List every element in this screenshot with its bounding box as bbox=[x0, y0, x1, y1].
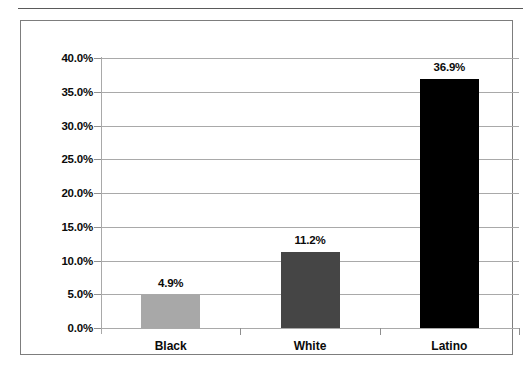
bar bbox=[420, 79, 479, 328]
chart-frame: 40.0% 35.0% 30.0% 25.0% 20.0% 15.0% 10.0… bbox=[20, 20, 513, 355]
y-axis-tick bbox=[94, 193, 101, 194]
bar-value-label: 36.9% bbox=[409, 61, 489, 73]
y-axis-tick bbox=[94, 159, 101, 160]
page-top-rule bbox=[18, 8, 523, 9]
y-axis-tick bbox=[94, 328, 101, 329]
category-label-white: White bbox=[260, 339, 360, 353]
y-tick-label-0: 0.0% bbox=[37, 322, 93, 334]
y-axis-tick bbox=[94, 294, 101, 295]
y-tick-label-10: 10.0% bbox=[37, 255, 93, 267]
category-label-latino: Latino bbox=[399, 339, 499, 353]
y-tick-label-15: 15.0% bbox=[37, 221, 93, 233]
y-axis-tick bbox=[94, 92, 101, 93]
y-axis-tick-labels: 40.0% 35.0% 30.0% 25.0% 20.0% 15.0% 10.0… bbox=[35, 21, 93, 354]
bar-value-label: 4.9% bbox=[131, 277, 211, 289]
y-tick-label-40: 40.0% bbox=[37, 52, 93, 64]
gridline bbox=[101, 328, 519, 329]
x-axis-tick bbox=[240, 328, 241, 335]
y-tick-label-35: 35.0% bbox=[37, 86, 93, 98]
y-axis-tick bbox=[94, 261, 101, 262]
y-axis-tick bbox=[94, 227, 101, 228]
y-axis-tick bbox=[94, 58, 101, 59]
y-tick-label-30: 30.0% bbox=[37, 120, 93, 132]
bar bbox=[281, 252, 340, 328]
x-axis-tick bbox=[519, 328, 520, 335]
y-tick-label-5: 5.0% bbox=[37, 288, 93, 300]
x-axis-tick bbox=[380, 328, 381, 335]
y-axis-tick bbox=[94, 126, 101, 127]
y-tick-label-20: 20.0% bbox=[37, 187, 93, 199]
category-label-black: Black bbox=[121, 339, 221, 353]
y-tick-label-25: 25.0% bbox=[37, 153, 93, 165]
bar-value-label: 11.2% bbox=[270, 234, 350, 246]
bar bbox=[141, 295, 200, 328]
gridline bbox=[101, 58, 519, 59]
